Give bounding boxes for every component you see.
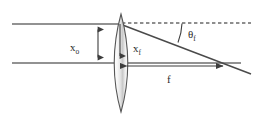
optics-ray-diagram: xo xf θf f [0, 0, 262, 121]
angle-subscript: f [193, 34, 196, 43]
angle-label: θf [188, 28, 196, 43]
converging-lens [114, 14, 128, 112]
diagram-canvas: xo xf θf f [0, 0, 262, 121]
object-height-subscript: o [76, 47, 80, 56]
angle-arc-marker [178, 24, 182, 43]
focal-height-subscript: f [139, 48, 142, 57]
focal-height-label: xf [133, 42, 142, 57]
focal-length-label: f [167, 73, 171, 85]
object-height-label: xo [70, 41, 80, 56]
